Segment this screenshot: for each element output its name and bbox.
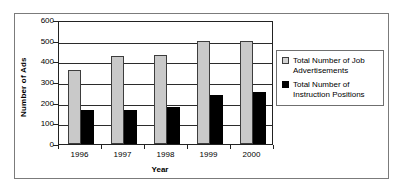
y-axis-tick-mark bbox=[53, 83, 58, 84]
y-axis-tick-label: 300 bbox=[30, 79, 54, 87]
x-axis-tick-mark bbox=[273, 145, 274, 149]
bar-2000-series0 bbox=[240, 41, 253, 144]
legend-item-label: Total Number ofInstruction Positions bbox=[293, 80, 365, 99]
y-axis-tick-label: 500 bbox=[30, 38, 54, 46]
x-axis-tick-mark bbox=[230, 145, 231, 149]
x-axis-tick-label: 1999 bbox=[187, 150, 230, 159]
bar-2000-series1 bbox=[253, 92, 266, 144]
legend-swatch-icon bbox=[282, 81, 289, 88]
legend-item-label: Total Number of JobAdvertisements bbox=[293, 56, 365, 75]
legend-label-line1: Total Number of bbox=[293, 80, 349, 89]
bar-1998-series1 bbox=[167, 107, 180, 144]
legend-label-line1: Total Number of Job bbox=[293, 56, 365, 65]
y-axis-tick-mark bbox=[53, 104, 58, 105]
bar-1996-series0 bbox=[68, 70, 81, 144]
bar-1997-series0 bbox=[111, 56, 124, 144]
bar-1999-series0 bbox=[197, 41, 210, 144]
y-axis-tick-mark bbox=[53, 21, 58, 22]
x-axis-tick-mark bbox=[58, 145, 59, 149]
legend-label-line2: Instruction Positions bbox=[293, 90, 365, 99]
x-axis-tick-label: 1996 bbox=[58, 150, 101, 159]
y-axis-tick-label: 400 bbox=[30, 58, 54, 66]
x-axis-tick-label: 1997 bbox=[101, 150, 144, 159]
y-axis-tick-mark bbox=[53, 42, 58, 43]
chart-legend: Total Number of JobAdvertisements Total … bbox=[276, 50, 384, 106]
y-axis-tick-mark bbox=[53, 62, 58, 63]
legend-item-job-advertisements[interactable]: Total Number of JobAdvertisements bbox=[282, 56, 379, 75]
y-axis-tick-label: 100 bbox=[30, 120, 54, 128]
bar-1997-series1 bbox=[124, 110, 137, 144]
y-axis-tick-label: 0 bbox=[30, 141, 54, 149]
plot-area bbox=[58, 21, 273, 145]
bar-1998-series0 bbox=[154, 55, 167, 144]
x-axis-tick-mark bbox=[144, 145, 145, 149]
x-axis-tick-label: 1998 bbox=[144, 150, 187, 159]
x-axis-tick-mark bbox=[187, 145, 188, 149]
bar-1999-series1 bbox=[210, 95, 223, 144]
x-axis-title: Year bbox=[40, 165, 280, 174]
x-axis-tick-mark bbox=[101, 145, 102, 149]
bar-1996-series1 bbox=[81, 110, 94, 144]
y-axis-tick-label: 200 bbox=[30, 100, 54, 108]
x-axis-tick-label: 2000 bbox=[230, 150, 273, 159]
y-axis-tick-mark bbox=[53, 124, 58, 125]
chart-figure: Number of Ads 0100200300400500600 Year T… bbox=[0, 0, 404, 193]
y-axis-tick-label: 600 bbox=[30, 17, 54, 25]
legend-item-instruction-positions[interactable]: Total Number ofInstruction Positions bbox=[282, 80, 379, 99]
legend-swatch-icon bbox=[282, 57, 289, 64]
legend-label-line2: Advertisements bbox=[293, 66, 348, 75]
